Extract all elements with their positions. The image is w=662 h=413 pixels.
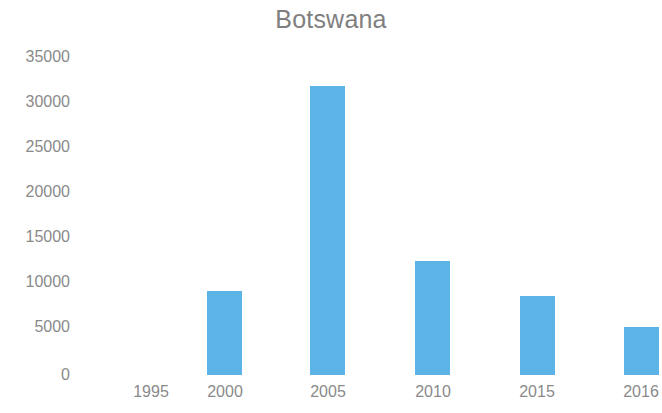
x-axis-tick-label: 2005 [310, 380, 346, 404]
x-axis-tick-label: 2010 [415, 380, 451, 404]
bars-layer [75, 57, 662, 375]
bar-2000[interactable] [207, 291, 242, 375]
y-axis-tick-label: 15000 [2, 229, 70, 245]
x-axis-tick-label: 2000 [207, 380, 243, 404]
y-axis: 35000 30000 25000 20000 15000 10000 5000… [0, 0, 70, 413]
x-axis-tick-label: 1995 [133, 380, 169, 404]
chart-title: Botswana [0, 2, 662, 36]
y-axis-tick-label: 10000 [2, 274, 70, 290]
bar-2016[interactable] [624, 327, 659, 375]
x-axis: 1995 2000 2005 2010 2015 2016 [75, 380, 662, 413]
bar-2010[interactable] [415, 261, 450, 375]
y-axis-tick-label: 5000 [2, 319, 70, 335]
y-axis-tick-label: 0 [2, 367, 70, 383]
y-axis-tick-label: 25000 [2, 139, 70, 155]
x-axis-tick-label: 2015 [519, 380, 555, 404]
y-axis-tick-label: 20000 [2, 184, 70, 200]
bar-chart: Botswana 35000 30000 25000 20000 15000 1… [0, 0, 662, 413]
y-axis-tick-label: 35000 [2, 49, 70, 65]
y-axis-tick-label: 30000 [2, 94, 70, 110]
bar-2005[interactable] [310, 86, 345, 375]
bar-2015[interactable] [520, 296, 555, 375]
x-axis-tick-label: 2016 [623, 380, 659, 404]
